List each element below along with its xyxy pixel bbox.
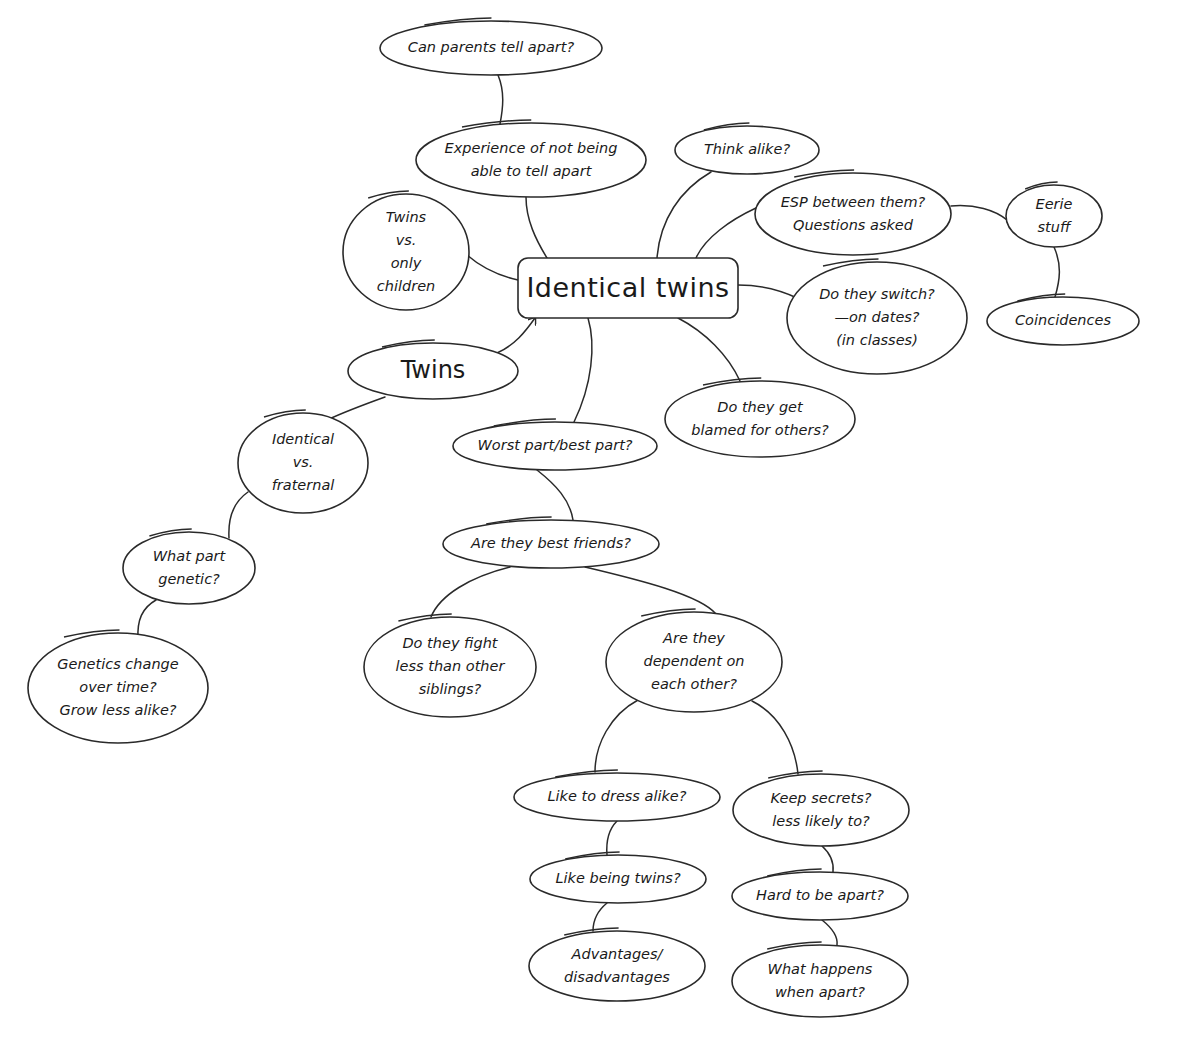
node-label-line: blamed for others? (691, 422, 829, 438)
node-label-line: children (377, 278, 436, 294)
node-keep-secrets[interactable]: Keep secrets?less likely to? (733, 771, 909, 846)
node-bubble[interactable] (416, 123, 646, 197)
node-label-line: less likely to? (772, 813, 870, 829)
node-label-line: Do they get (717, 399, 804, 415)
node-label-line: —on dates? (834, 309, 919, 325)
connector-dress-alike-to-like-being-twins (607, 821, 617, 855)
node-experience[interactable]: Experience of not beingable to tell apar… (416, 120, 646, 197)
node-label-line: Eerie (1036, 196, 1073, 212)
node-label-line: able to tell apart (471, 163, 593, 179)
connector-what-part-genetic-to-genetics-change (138, 600, 156, 639)
node-identical-vs-fraternal[interactable]: Identicalvs.fraternal (238, 410, 368, 513)
mind-map-canvas: Can parents tell apart?Experience of not… (0, 0, 1178, 1037)
nodes-layer: Can parents tell apart?Experience of not… (28, 18, 1139, 1017)
connector-identical-twins-to-worst-best (574, 318, 592, 422)
node-label-line: (in classes) (836, 332, 918, 348)
node-label-line: only (391, 255, 422, 271)
node-label-line: What happens (768, 961, 873, 977)
connector-identical-twins-to-switch (738, 285, 797, 298)
node-what-part-genetic[interactable]: What partgenetic? (123, 529, 255, 604)
connector-esp-to-identical-twins (696, 208, 756, 258)
node-esp[interactable]: ESP between them?Questions asked (755, 170, 951, 255)
connector-twins-to-identical-twins (497, 318, 535, 353)
node-label-line: Can parents tell apart? (408, 39, 575, 55)
node-dress-alike[interactable]: Like to dress alike? (514, 770, 720, 821)
node-label-line: Identical (272, 431, 334, 447)
node-label-line: siblings? (419, 681, 482, 697)
node-like-being-twins[interactable]: Like being twins? (530, 852, 706, 903)
central-topic[interactable]: Identical twins (518, 258, 738, 318)
node-bubble[interactable] (1006, 185, 1102, 247)
node-twins[interactable]: Twins (348, 340, 518, 399)
connector-dependent-to-keep-secrets (752, 701, 798, 774)
node-label-line: less than other (396, 658, 506, 674)
node-genetics-change[interactable]: Genetics changeover time?Grow less alike… (28, 630, 208, 743)
connector-eerie-to-coincidences (1054, 247, 1059, 297)
node-label-line: over time? (79, 679, 157, 695)
node-label-line: stuff (1038, 219, 1072, 235)
node-label-line: Like to dress alike? (548, 788, 687, 804)
node-bubble[interactable] (665, 381, 855, 457)
node-can-parents[interactable]: Can parents tell apart? (380, 18, 602, 75)
connector-esp-to-eerie (951, 206, 1007, 220)
connector-identical-vs-fraternal-to-what-part-genetic (229, 492, 248, 538)
node-think-alike[interactable]: Think alike? (675, 123, 819, 174)
node-label-line: fraternal (272, 477, 335, 493)
node-what-happens[interactable]: What happenswhen apart? (732, 942, 908, 1017)
node-label-line: disadvantages (564, 969, 670, 985)
node-label-line: Keep secrets? (771, 790, 872, 806)
node-bubble[interactable] (732, 945, 908, 1017)
connector-think-alike-to-identical-twins (657, 172, 711, 258)
node-twins-vs-only[interactable]: Twinsvs.onlychildren (343, 191, 469, 310)
connector-twins-to-identical-vs-fraternal (327, 397, 385, 420)
node-label-line: Do they fight (402, 635, 498, 651)
node-label-line: Are they (662, 630, 725, 646)
node-label-line: Twins (400, 356, 466, 384)
node-label-line: when apart? (775, 984, 865, 1000)
connector-best-friends-to-dependent (585, 567, 716, 614)
connector-identical-twins-to-blamed (678, 318, 740, 381)
node-label-line: Experience of not being (445, 140, 618, 156)
node-label-line: What part (153, 548, 227, 564)
connector-best-friends-to-fight-less (431, 567, 510, 617)
node-label-line: each other? (651, 676, 737, 692)
node-label-line: ESP between them? (781, 194, 926, 210)
node-label-line: Worst part/best part? (477, 437, 632, 453)
node-coincidences[interactable]: Coincidences (987, 294, 1139, 345)
node-best-friends[interactable]: Are they best friends? (443, 517, 659, 568)
node-label-line: Twins (386, 209, 427, 225)
node-label-line: Think alike? (704, 141, 791, 157)
node-eerie[interactable]: Eeriestuff (1006, 182, 1102, 247)
node-label-line: vs. (293, 454, 314, 470)
node-fight-less[interactable]: Do they fightless than othersiblings? (364, 614, 536, 717)
node-label-line: Advantages/ (571, 946, 665, 962)
node-label-line: Grow less alike? (59, 702, 176, 718)
node-label-line: Hard to be apart? (756, 887, 884, 903)
node-label-line: dependent on (643, 653, 744, 669)
connector-worst-best-to-best-friends (537, 470, 573, 520)
central-topic-label: Identical twins (526, 272, 729, 303)
node-dependent[interactable]: Are theydependent oneach other? (606, 609, 782, 712)
node-label-line: Do they switch? (819, 286, 935, 302)
node-label-line: Genetics change (57, 656, 179, 672)
node-bubble[interactable] (733, 774, 909, 846)
node-worst-best[interactable]: Worst part/best part? (453, 419, 657, 470)
node-blamed[interactable]: Do they getblamed for others? (665, 378, 855, 457)
connector-experience-to-identical-twins (526, 197, 547, 258)
connector-keep-secrets-to-hard-apart (822, 846, 833, 872)
connector-like-being-twins-to-advantages (593, 903, 607, 931)
node-advantages[interactable]: Advantages/disadvantages (529, 928, 705, 1001)
node-label-line: vs. (396, 232, 417, 248)
node-hard-apart[interactable]: Hard to be apart? (732, 869, 908, 920)
connector-can-parents-to-experience (498, 75, 503, 124)
node-label-line: Coincidences (1015, 312, 1111, 328)
connector-hard-apart-to-what-happens (822, 920, 837, 945)
node-label-line: Like being twins? (555, 870, 681, 886)
connector-twins-vs-only-to-identical-twins (467, 255, 518, 280)
node-label-line: Questions asked (793, 217, 914, 233)
node-bubble[interactable] (755, 173, 951, 255)
node-switch[interactable]: Do they switch?—on dates?(in classes) (787, 259, 967, 374)
node-bubble[interactable] (123, 532, 255, 604)
node-label-line: Are they best friends? (470, 535, 631, 551)
node-bubble[interactable] (529, 931, 705, 1001)
